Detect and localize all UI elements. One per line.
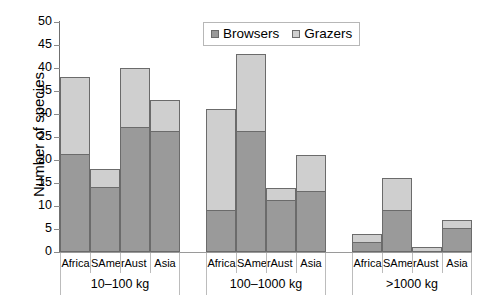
y-tick-20: 20: [24, 153, 52, 165]
bar-segment-browsers: [296, 191, 326, 252]
category-label-asia-g3: Asia: [442, 253, 472, 273]
category-label-aust-g2: Aust: [266, 253, 296, 273]
bar-segment-grazers: [382, 178, 412, 210]
bar-aust-g2[interactable]: [266, 188, 296, 252]
bar-segment-grazers: [150, 100, 180, 132]
legend-label-grazers: Grazers: [304, 26, 352, 41]
bar-group-2: [206, 22, 326, 252]
bar-segment-grazers: [442, 220, 472, 229]
bar-samer-g1[interactable]: [90, 169, 120, 252]
bar-africa-g2[interactable]: [206, 109, 236, 252]
category-label-asia-g2: Asia: [296, 253, 326, 273]
bar-segment-grazers: [90, 169, 120, 187]
bar-asia-g1[interactable]: [150, 100, 180, 252]
category-label-africa-g3: Africa: [352, 253, 382, 273]
y-tick-mark-25: [54, 137, 60, 138]
category-label-aust-g1: Aust: [120, 253, 150, 273]
y-tick-mark-15: [54, 183, 60, 184]
group-label-3: >1000 kg: [352, 273, 472, 295]
category-label-samer-g3: SAmer: [382, 253, 412, 273]
y-tick-mark-35: [54, 91, 60, 92]
category-label-africa-g2: Africa: [206, 253, 236, 273]
category-label-samer-g2: SAmer: [236, 253, 266, 273]
bar-aust-g1[interactable]: [120, 68, 150, 252]
bar-group-3: [352, 22, 472, 252]
y-tick-30: 30: [24, 107, 52, 119]
bar-segment-browsers: [442, 228, 472, 252]
legend-item-browsers: Browsers: [211, 26, 279, 41]
y-tick-mark-40: [54, 68, 60, 69]
bar-segment-browsers: [382, 210, 412, 252]
y-tick-mark-45: [54, 45, 60, 46]
y-tick-50: 50: [24, 15, 52, 27]
y-tick-25: 25: [24, 130, 52, 142]
bar-segment-browsers: [266, 200, 296, 252]
group-label-2: 100–1000 kg: [206, 273, 326, 295]
bar-segment-grazers: [266, 188, 296, 202]
category-label-aust-g3: Aust: [412, 253, 442, 273]
bar-group-1: [60, 22, 180, 252]
bar-segment-browsers: [236, 131, 266, 252]
category-label-asia-g1: Asia: [150, 253, 180, 273]
bar-segment-browsers: [90, 187, 120, 252]
bar-segment-browsers: [120, 127, 150, 252]
bar-segment-grazers: [352, 234, 382, 243]
group-label-1: 10–100 kg: [60, 273, 180, 295]
y-tick-0: 0: [24, 245, 52, 257]
bar-africa-g3[interactable]: [352, 234, 382, 252]
bar-asia-g3[interactable]: [442, 220, 472, 252]
bar-aust-g3[interactable]: [412, 247, 442, 252]
bar-segment-grazers: [296, 155, 326, 192]
y-tick-40: 40: [24, 61, 52, 73]
bar-segment-grazers: [412, 247, 442, 252]
category-label-row: AfricaSAmerAustAsiaAfricaSAmerAustAsiaAf…: [60, 253, 472, 273]
category-label-samer-g1: SAmer: [90, 253, 120, 273]
bar-segment-grazers: [120, 68, 150, 128]
bar-segment-grazers: [206, 109, 236, 210]
y-tick-mark-50: [54, 22, 60, 23]
y-tick-mark-20: [54, 160, 60, 161]
y-tick-mark-30: [54, 114, 60, 115]
plot-area: [60, 22, 472, 252]
y-tick-45: 45: [24, 38, 52, 50]
bar-segment-browsers: [352, 242, 382, 252]
y-tick-mark-5: [54, 229, 60, 230]
chart-legend: Browsers Grazers: [203, 22, 360, 46]
y-tick-mark-10: [54, 206, 60, 207]
y-tick-mark-0: [54, 252, 60, 253]
y-tick-10: 10: [24, 199, 52, 211]
y-tick-35: 35: [24, 84, 52, 96]
legend-swatch-browsers-icon: [211, 30, 219, 38]
bar-africa-g1[interactable]: [60, 77, 90, 252]
legend-swatch-grazers-icon: [292, 30, 300, 38]
bar-segment-grazers: [60, 77, 90, 155]
bar-segment-browsers: [60, 154, 90, 252]
chart-container: Number of species 50454035302520151050 A…: [0, 0, 490, 306]
bar-segment-browsers: [150, 131, 180, 252]
bar-samer-g3[interactable]: [382, 178, 412, 252]
group-label-row: 10–100 kg100–1000 kg>1000 kg: [60, 273, 472, 295]
y-tick-5: 5: [24, 222, 52, 234]
legend-label-browsers: Browsers: [223, 26, 279, 41]
y-tick-15: 15: [24, 176, 52, 188]
legend-item-grazers: Grazers: [292, 26, 352, 41]
category-label-africa-g1: Africa: [60, 253, 90, 273]
bar-samer-g2[interactable]: [236, 54, 266, 252]
bar-segment-browsers: [206, 210, 236, 252]
bar-asia-g2[interactable]: [296, 155, 326, 252]
bar-segment-grazers: [236, 54, 266, 132]
